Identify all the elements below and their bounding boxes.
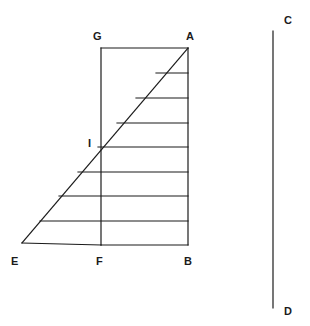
vertex-label-G: G (93, 31, 102, 42)
vertex-label-D: D (284, 306, 292, 317)
vertex-label-B: B (184, 256, 192, 267)
geometry-line-group (22, 31, 273, 308)
vertex-label-C: C (284, 15, 292, 26)
diagonal-EA (22, 48, 188, 243)
vertex-label-A: A (186, 31, 194, 42)
figure-canvas (0, 0, 310, 326)
vertex-label-F: F (96, 256, 103, 267)
geometry-figure: G A C I E F B D (0, 0, 310, 326)
vertex-label-E: E (11, 256, 19, 267)
baseline-EF (22, 243, 101, 245)
vertex-label-I: I (88, 138, 91, 149)
